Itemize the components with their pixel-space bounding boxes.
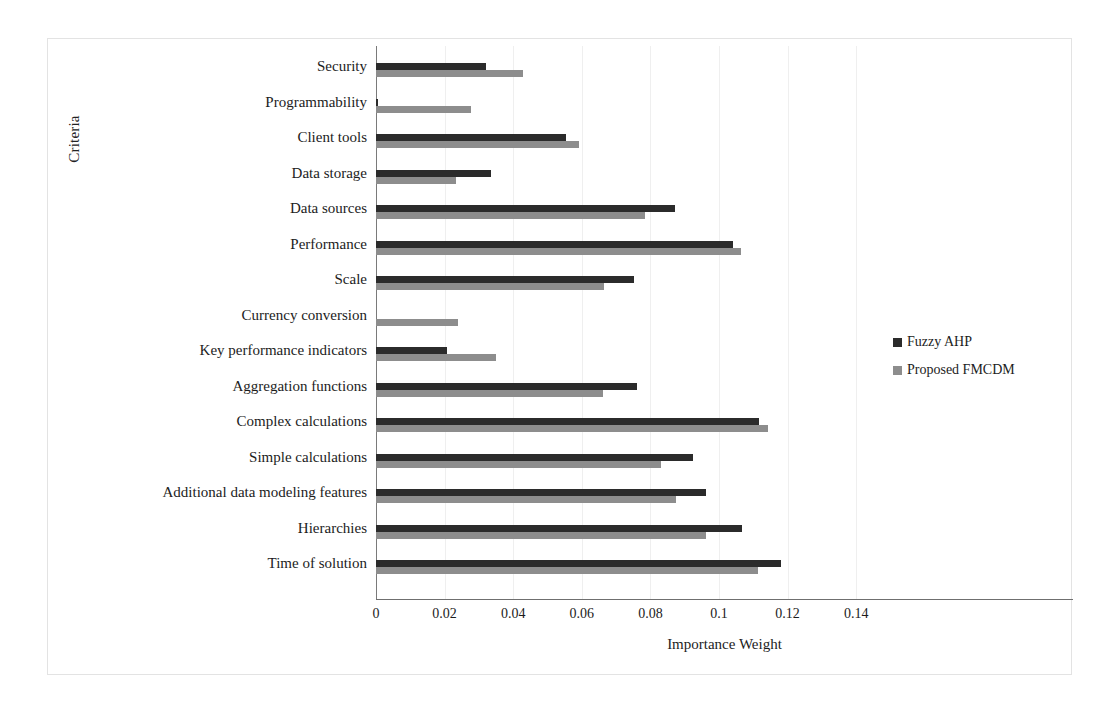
bar-row: Data sources bbox=[376, 198, 1073, 234]
x-tick-label: 0.1 bbox=[710, 606, 728, 622]
bar-row: Security bbox=[376, 56, 1073, 92]
category-label: Time of solution bbox=[268, 552, 367, 574]
y-axis-title: Criteria bbox=[66, 39, 83, 239]
bar-row: Time of solution bbox=[376, 553, 1073, 589]
bar-row: Additional data modeling features bbox=[376, 482, 1073, 518]
category-label: Complex calculations bbox=[237, 410, 367, 432]
bar-fuzzy-ahp bbox=[376, 205, 675, 212]
bar-fuzzy-ahp bbox=[376, 489, 706, 496]
category-label: Simple calculations bbox=[249, 446, 367, 468]
bar-proposed-fmcdm bbox=[376, 354, 496, 361]
legend-item[interactable]: Fuzzy AHP bbox=[893, 334, 1015, 350]
bar-proposed-fmcdm bbox=[376, 425, 768, 432]
bar-rows: SecurityProgrammabilityClient toolsData … bbox=[376, 46, 1073, 599]
category-label: Currency conversion bbox=[242, 304, 367, 326]
bar-fuzzy-ahp bbox=[376, 525, 742, 532]
bar-proposed-fmcdm bbox=[376, 106, 471, 113]
bar-row: Programmability bbox=[376, 92, 1073, 128]
category-label: Data sources bbox=[290, 197, 367, 219]
bar-row: Hierarchies bbox=[376, 518, 1073, 554]
bar-row: Performance bbox=[376, 234, 1073, 270]
category-label: Security bbox=[317, 55, 367, 77]
bar-proposed-fmcdm bbox=[376, 70, 523, 77]
x-tick-label: 0.14 bbox=[844, 606, 869, 622]
x-tick-label: 0.06 bbox=[570, 606, 595, 622]
bar-proposed-fmcdm bbox=[376, 532, 706, 539]
bar-proposed-fmcdm bbox=[376, 141, 579, 148]
legend-swatch-icon bbox=[893, 366, 902, 375]
legend-label: Fuzzy AHP bbox=[907, 334, 972, 350]
category-label: Client tools bbox=[297, 126, 367, 148]
bar-fuzzy-ahp bbox=[376, 63, 486, 70]
category-label: Data storage bbox=[292, 162, 367, 184]
bar-proposed-fmcdm bbox=[376, 390, 603, 397]
bar-row: Client tools bbox=[376, 127, 1073, 163]
bar-fuzzy-ahp bbox=[376, 241, 733, 248]
bar-proposed-fmcdm bbox=[376, 461, 661, 468]
category-label: Key performance indicators bbox=[200, 339, 367, 361]
bar-fuzzy-ahp bbox=[376, 276, 634, 283]
category-label: Additional data modeling features bbox=[162, 481, 367, 503]
category-label: Hierarchies bbox=[298, 517, 367, 539]
chart-legend: Fuzzy AHPProposed FMCDM bbox=[893, 334, 1015, 390]
category-label: Aggregation functions bbox=[232, 375, 367, 397]
bar-fuzzy-ahp bbox=[376, 347, 447, 354]
bar-fuzzy-ahp bbox=[376, 418, 759, 425]
bar-proposed-fmcdm bbox=[376, 177, 456, 184]
x-tick-label: 0.04 bbox=[501, 606, 526, 622]
bar-row: Data storage bbox=[376, 163, 1073, 199]
bar-proposed-fmcdm bbox=[376, 283, 604, 290]
x-tick-label: 0.12 bbox=[775, 606, 800, 622]
bar-fuzzy-ahp bbox=[376, 560, 781, 567]
legend-label: Proposed FMCDM bbox=[907, 362, 1015, 378]
bar-proposed-fmcdm bbox=[376, 212, 645, 219]
bar-row: Scale bbox=[376, 269, 1073, 305]
x-tick-label: 0 bbox=[373, 606, 380, 622]
legend-swatch-icon bbox=[893, 338, 902, 347]
x-tick-label: 0.02 bbox=[432, 606, 457, 622]
bar-row: Complex calculations bbox=[376, 411, 1073, 447]
bar-fuzzy-ahp bbox=[376, 99, 378, 106]
x-axis-line bbox=[376, 599, 1073, 600]
bar-fuzzy-ahp bbox=[376, 134, 566, 141]
bar-fuzzy-ahp bbox=[376, 454, 693, 461]
plot-area: SecurityProgrammabilityClient toolsData … bbox=[376, 46, 1073, 599]
bar-proposed-fmcdm bbox=[376, 319, 458, 326]
bar-proposed-fmcdm bbox=[376, 567, 758, 574]
x-tick-label: 0.08 bbox=[638, 606, 663, 622]
bar-fuzzy-ahp bbox=[376, 170, 491, 177]
category-label: Programmability bbox=[265, 91, 367, 113]
bar-fuzzy-ahp bbox=[376, 383, 637, 390]
category-label: Scale bbox=[335, 268, 367, 290]
chart-figure: Criteria SecurityProgrammabilityClient t… bbox=[47, 38, 1072, 675]
category-label: Performance bbox=[290, 233, 367, 255]
bar-proposed-fmcdm bbox=[376, 496, 676, 503]
x-axis-title: Importance Weight bbox=[376, 636, 1073, 653]
bar-proposed-fmcdm bbox=[376, 248, 741, 255]
legend-item[interactable]: Proposed FMCDM bbox=[893, 362, 1015, 378]
bar-row: Simple calculations bbox=[376, 447, 1073, 483]
